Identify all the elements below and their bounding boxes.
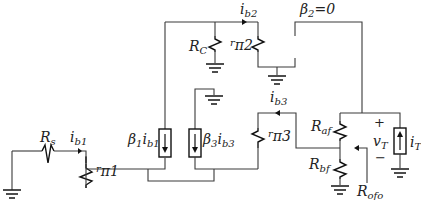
- ground-icon: [268, 76, 286, 84]
- ground-icon: [3, 190, 21, 198]
- label-rs: Rs: [39, 129, 56, 147]
- label-beta2: β2=0: [299, 1, 335, 19]
- stage3-input: [252, 110, 340, 169]
- label-raf: Raf: [310, 118, 334, 136]
- resistor-rpi2: [252, 36, 264, 52]
- ground-icon: [391, 169, 409, 177]
- label-ib3: ib3: [270, 89, 287, 107]
- arrow-rofo: [354, 145, 359, 151]
- arrow-ib1: [78, 148, 82, 154]
- label-beta1-ib1: β1ib1: [127, 131, 160, 149]
- ground-icon: [205, 96, 223, 104]
- current-source-it: [394, 128, 406, 168]
- ground-icon: [206, 64, 224, 72]
- input-loop: [12, 145, 92, 190]
- label-beta3-ib3: β3ib3: [202, 131, 235, 149]
- resistor-rpi3: [252, 128, 264, 148]
- label-vt-plus: +: [374, 115, 385, 130]
- label-rpi1: rπ1: [96, 163, 119, 179]
- resistor-raf: [334, 121, 346, 141]
- ground-icon: [331, 186, 349, 194]
- resistor-rbf: [334, 159, 346, 179]
- label-rc: RC: [188, 38, 208, 56]
- label-rpi2: rπ2: [230, 37, 253, 53]
- label-rbf: Rbf: [308, 156, 332, 174]
- label-it: iT: [410, 134, 421, 152]
- resistor-rs: [42, 145, 54, 163]
- arrow-ib3: [275, 110, 280, 116]
- label-rofo: Rofo: [356, 183, 383, 200]
- resistor-rc: [209, 36, 221, 52]
- arrow-ib2: [242, 19, 247, 25]
- circuit-diagram: Rs ib1 rπ1 β1ib1 RC ib2 rπ2 β2=0 β3ib3 i…: [0, 0, 421, 200]
- label-vt: vT: [373, 133, 389, 151]
- current-source-beta1: [159, 22, 171, 157]
- label-ib1: ib1: [70, 129, 87, 147]
- label-ib2: ib2: [240, 1, 257, 19]
- current-source-beta3: [189, 89, 258, 169]
- label-rpi3: rπ3: [268, 128, 291, 144]
- feedback-network: [334, 113, 400, 185]
- label-vt-minus: −: [375, 150, 386, 165]
